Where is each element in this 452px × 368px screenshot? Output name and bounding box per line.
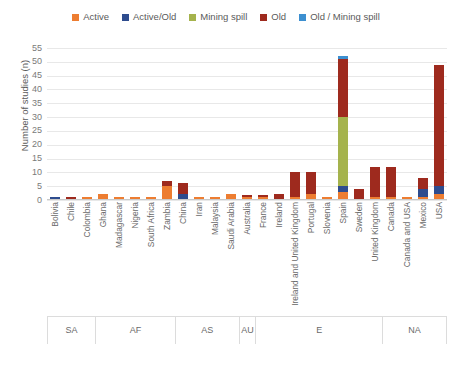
- y-axis-tick-label: 55: [22, 44, 42, 53]
- bar-slot[interactable]: [271, 48, 287, 200]
- y-axis-tick-label: 40: [22, 85, 42, 94]
- legend-item[interactable]: Active/Old: [122, 12, 176, 22]
- y-axis-tick-label: 30: [22, 113, 42, 122]
- bar-segment[interactable]: [434, 186, 444, 194]
- category-label-slot: Slovenia: [319, 200, 335, 320]
- legend-item[interactable]: Old / Mining spill: [299, 12, 380, 22]
- category-label: Spain: [339, 202, 347, 223]
- category-label: Iran: [195, 202, 203, 216]
- continent-group: E: [255, 316, 382, 344]
- bar-slot[interactable]: [47, 48, 63, 200]
- category-label-slot: Madagascar: [111, 200, 127, 320]
- bar-slot[interactable]: [319, 48, 335, 200]
- bar-segment[interactable]: [290, 172, 300, 197]
- bar-slot[interactable]: [335, 48, 351, 200]
- category-label-slot: China: [175, 200, 191, 320]
- stacked-bar[interactable]: [370, 167, 380, 200]
- bar-slot[interactable]: [431, 48, 447, 200]
- bar-slot[interactable]: [127, 48, 143, 200]
- y-axis-tick-label: 45: [22, 71, 42, 80]
- bar-slot[interactable]: [303, 48, 319, 200]
- bar-slot[interactable]: [63, 48, 79, 200]
- bar-slot[interactable]: [351, 48, 367, 200]
- y-axis-tick-label: 25: [22, 126, 42, 135]
- category-label: South Africa: [147, 202, 155, 247]
- bar-slot[interactable]: [223, 48, 239, 200]
- legend-swatch-icon: [122, 14, 129, 21]
- bar-slot[interactable]: [399, 48, 415, 200]
- category-label: France: [259, 202, 267, 228]
- bar-slot[interactable]: [207, 48, 223, 200]
- category-label-slot: Mexico: [415, 200, 431, 320]
- bar-segment[interactable]: [434, 65, 444, 187]
- continent-group-label: AF: [130, 326, 142, 335]
- bar-slot[interactable]: [383, 48, 399, 200]
- bar-segment[interactable]: [162, 186, 172, 200]
- bar-slot[interactable]: [143, 48, 159, 200]
- category-label-slot: Sweden: [351, 200, 367, 320]
- bar-segment[interactable]: [338, 59, 348, 117]
- plot-area: [47, 48, 447, 200]
- continent-group: AF: [95, 316, 175, 344]
- legend-item[interactable]: Active: [72, 12, 109, 22]
- category-label-slot: Ghana: [95, 200, 111, 320]
- category-label-slot: Colombia: [79, 200, 95, 320]
- stacked-bar[interactable]: [178, 183, 188, 200]
- bar-slot[interactable]: [175, 48, 191, 200]
- stacked-bar[interactable]: [418, 178, 428, 200]
- bar-segment[interactable]: [418, 189, 428, 197]
- bar-segment[interactable]: [338, 117, 348, 186]
- category-label-slot: Spain: [335, 200, 351, 320]
- bar-slot[interactable]: [95, 48, 111, 200]
- bar-segment[interactable]: [370, 167, 380, 197]
- category-label-slot: USA: [431, 200, 447, 320]
- continent-group-axis: SAAFASAUENA: [47, 316, 447, 344]
- continent-group-label: AS: [201, 326, 213, 335]
- category-label-slot: Ireland: [271, 200, 287, 320]
- stacked-bar[interactable]: [162, 181, 172, 200]
- bar-slot[interactable]: [111, 48, 127, 200]
- stacked-bar[interactable]: [306, 172, 316, 200]
- category-label-slot: United Kingdom: [367, 200, 383, 320]
- stacked-bar[interactable]: [290, 172, 300, 200]
- legend-item[interactable]: Old: [260, 12, 286, 22]
- legend-item[interactable]: Mining spill: [189, 12, 247, 22]
- category-label: United Kingdom: [371, 202, 379, 262]
- bar-series-container: [47, 48, 447, 200]
- continent-group: SA: [47, 316, 95, 344]
- category-label-slot: Portugal: [303, 200, 319, 320]
- category-label-slot: Australia: [239, 200, 255, 320]
- continent-group-label: NA: [408, 326, 421, 335]
- category-label: Ireland: [275, 202, 283, 228]
- bar-slot[interactable]: [79, 48, 95, 200]
- category-label-slot: Nigeria: [127, 200, 143, 320]
- category-label: Sweden: [355, 202, 363, 232]
- bar-segment[interactable]: [418, 178, 428, 189]
- legend-item-label: Old / Mining spill: [310, 12, 380, 22]
- bar-segment[interactable]: [306, 172, 316, 194]
- bar-slot[interactable]: [159, 48, 175, 200]
- bar-segment[interactable]: [386, 167, 396, 197]
- legend-swatch-icon: [72, 14, 79, 21]
- bar-slot[interactable]: [191, 48, 207, 200]
- category-label: Bolivia: [51, 202, 59, 227]
- bar-segment[interactable]: [178, 183, 188, 194]
- bar-slot[interactable]: [255, 48, 271, 200]
- category-label-slot: Malaysia: [207, 200, 223, 320]
- bar-chart: ActiveActive/OldMining spillOldOld / Min…: [0, 0, 452, 368]
- category-label: Portugal: [307, 202, 315, 233]
- category-label-slot: Ireland and United Kingdom: [287, 200, 303, 320]
- bar-slot[interactable]: [367, 48, 383, 200]
- stacked-bar[interactable]: [434, 65, 444, 200]
- legend-swatch-icon: [260, 14, 267, 21]
- continent-group: AS: [175, 316, 239, 344]
- bar-slot[interactable]: [287, 48, 303, 200]
- y-axis-tick-label: 5: [22, 182, 42, 191]
- category-label-slot: Bolivia: [47, 200, 63, 320]
- stacked-bar[interactable]: [386, 167, 396, 200]
- legend-swatch-icon: [189, 14, 196, 21]
- bar-slot[interactable]: [415, 48, 431, 200]
- stacked-bar[interactable]: [338, 56, 348, 200]
- bar-slot[interactable]: [239, 48, 255, 200]
- category-label-slot: Saudi Arabia: [223, 200, 239, 320]
